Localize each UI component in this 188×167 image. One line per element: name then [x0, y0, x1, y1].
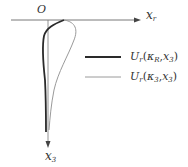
legend-paren-close: ): [174, 50, 178, 63]
legend-paren-close: ): [173, 70, 177, 83]
curve-kappa-R: [43, 20, 64, 132]
y-axis-label-sub: 3: [52, 156, 56, 164]
y-axis-label: x3: [45, 150, 56, 164]
legend-label-kappa-R: Ur(κR,x3): [130, 51, 178, 64]
x-axis-label-sub: r: [153, 15, 156, 23]
x-axis-label: xr: [146, 9, 156, 23]
y-axis-arrow-icon: [46, 141, 51, 148]
x-axis-label-main: x: [146, 8, 153, 22]
curve-kappa-3: [49, 20, 76, 130]
legend-label-kappa-3: Ur(κ3,x3): [130, 71, 177, 84]
x-axis-arrow-icon: [134, 18, 141, 23]
legend-fn: U: [130, 70, 139, 83]
y-axis-label-main: x: [45, 149, 52, 163]
legend-fn: U: [130, 50, 139, 63]
origin-label: O: [37, 4, 46, 15]
